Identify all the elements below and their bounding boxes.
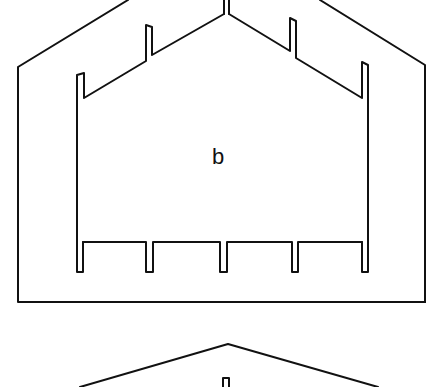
inner-right-roof xyxy=(229,14,368,272)
inner-bottom-teeth xyxy=(83,242,362,272)
outer-frame-right-roof xyxy=(320,0,425,302)
lower-figure xyxy=(80,344,378,387)
lower-ridge-notch xyxy=(223,378,229,387)
diagram-canvas: b xyxy=(0,0,426,387)
figure-label-b: b xyxy=(212,144,224,169)
inner-left-roof xyxy=(77,14,224,272)
inner-profile xyxy=(77,0,368,272)
